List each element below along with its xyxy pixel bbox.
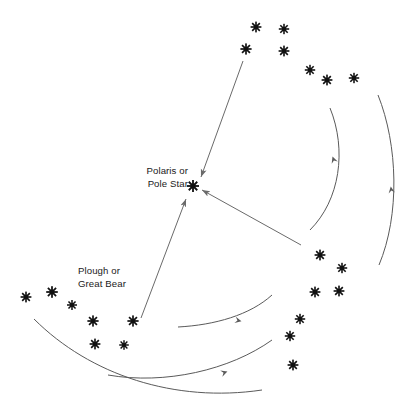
- star-core: [325, 78, 330, 83]
- star-core: [282, 27, 286, 31]
- star-plough-left-6: [119, 340, 129, 350]
- star-core: [122, 343, 126, 347]
- star-plough-top-5: [322, 75, 333, 86]
- plough-right-cluster: [285, 250, 347, 371]
- star-core: [190, 183, 195, 188]
- sky-canvas: Polaris or Pole Star Plough or Great Bea…: [0, 0, 411, 412]
- star-plough-right-4: [295, 314, 305, 324]
- far-outer-arc: [34, 319, 262, 393]
- star-plough-top-2: [240, 43, 251, 54]
- top-plough-to-polaris-arrow: [201, 61, 243, 177]
- plough-label-line2: Great Bear: [78, 278, 127, 289]
- outer-bottom-arc-arrowhead-icon: [220, 368, 228, 376]
- star-plough-left-1: [46, 286, 58, 298]
- star-core: [24, 295, 29, 300]
- star-core: [298, 317, 302, 321]
- inner-right-arc-arrowhead-icon: [329, 155, 337, 163]
- polaris-label-line2: Pole Star: [148, 178, 189, 189]
- star-core: [91, 319, 96, 324]
- star-plough-top-1: [279, 24, 289, 34]
- star-plough-left-4: [127, 315, 138, 326]
- star-polaris: [187, 180, 199, 192]
- star-plough-right-6: [288, 360, 299, 371]
- right-plough-to-polaris-arrow: [202, 190, 301, 245]
- star-plough-right-1: [337, 263, 347, 273]
- plough-top-cluster: [240, 22, 359, 86]
- star-core: [337, 289, 342, 294]
- polaris-label: Polaris or Pole Star: [146, 165, 188, 189]
- star-plough-right-3: [334, 286, 345, 297]
- star-core: [93, 342, 98, 347]
- star-core: [318, 253, 323, 258]
- inner-bottom-arc-arrowhead-icon: [234, 317, 242, 325]
- star-core: [131, 319, 136, 324]
- star-plough-top-6: [349, 73, 359, 83]
- star-plough-top-4: [305, 65, 315, 75]
- outer-right-arc: [378, 95, 394, 265]
- polaris-label-line1: Polaris or: [146, 165, 188, 176]
- star-plough-left-5: [90, 339, 101, 350]
- star-core: [50, 290, 55, 295]
- star-plough-top-3: [279, 46, 290, 57]
- star-plough-top-0: [251, 22, 262, 33]
- star-plough-right-5: [285, 331, 295, 341]
- star-core: [288, 334, 292, 338]
- plough-label: Plough or Great Bear: [78, 265, 127, 289]
- inner-bottom-arc: [178, 295, 272, 327]
- star-plough-right-0: [315, 250, 326, 261]
- pointer-arrows-group: [141, 61, 301, 318]
- left-plough-to-polaris-arrow: [141, 199, 186, 318]
- star-plough-right-2: [310, 287, 321, 298]
- plough-label-line1: Plough or: [78, 265, 121, 276]
- star-core: [291, 363, 296, 368]
- star-plough-left-3: [87, 315, 98, 326]
- star-core: [254, 25, 259, 30]
- star-plough-left-0: [21, 292, 32, 303]
- star-core: [313, 290, 318, 295]
- star-core: [308, 68, 312, 72]
- star-chart-diagram: Polaris or Pole Star Plough or Great Bea…: [0, 0, 411, 412]
- star-core: [70, 303, 74, 307]
- star-plough-left-2: [67, 300, 77, 310]
- star-core: [282, 49, 287, 54]
- star-core: [352, 76, 356, 80]
- star-core: [340, 266, 344, 270]
- stars-group: [21, 22, 360, 371]
- inner-right-arc: [310, 108, 339, 230]
- plough-left-cluster: [21, 286, 139, 350]
- star-core: [244, 47, 249, 52]
- outer-bottom-arc: [108, 340, 272, 378]
